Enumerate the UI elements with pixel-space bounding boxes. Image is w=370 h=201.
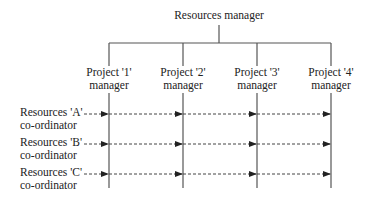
- project-2-title: Project '2': [160, 66, 205, 79]
- project-2-node: Project '2' manager: [160, 66, 205, 92]
- coordinator-b-title: Resources 'B': [20, 136, 82, 149]
- coordinator-b-role: co-ordinator: [20, 149, 82, 162]
- project-4-node: Project '4' manager: [308, 66, 353, 92]
- project-3-title: Project '3': [234, 66, 279, 79]
- coordinator-a-title: Resources 'A': [20, 106, 83, 119]
- project-1-title: Project '1': [86, 66, 131, 79]
- project-1-role: manager: [86, 79, 131, 92]
- project-4-role: manager: [308, 79, 353, 92]
- coordinator-a-node: Resources 'A' co-ordinator: [20, 106, 83, 132]
- coordinator-b-node: Resources 'B' co-ordinator: [20, 136, 82, 162]
- project-2-role: manager: [160, 79, 205, 92]
- project-1-node: Project '1' manager: [86, 66, 131, 92]
- project-3-node: Project '3' manager: [234, 66, 279, 92]
- coordinator-c-node: Resources 'C' co-ordinator: [20, 166, 82, 192]
- project-4-title: Project '4': [308, 66, 353, 79]
- project-3-role: manager: [234, 79, 279, 92]
- coordinator-a-role: co-ordinator: [20, 119, 83, 132]
- coordinator-c-role: co-ordinator: [20, 179, 82, 192]
- coordinator-c-title: Resources 'C': [20, 166, 82, 179]
- root-node-label: Resources manager: [174, 9, 264, 22]
